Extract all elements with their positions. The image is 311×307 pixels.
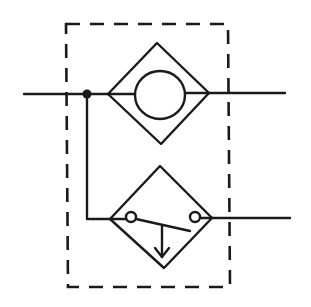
switch-contact-right-icon [190,212,200,222]
switch-contact-left-icon [126,212,136,222]
filter-element-circle [135,71,185,119]
assembly-boundary [66,24,230,287]
schematic-diagram [0,0,311,307]
branch-line [87,94,110,219]
